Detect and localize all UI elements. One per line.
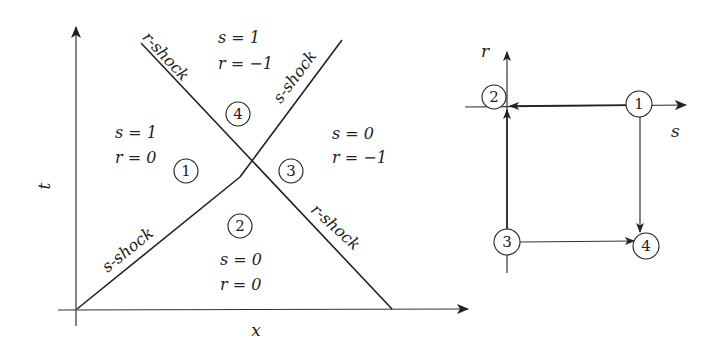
x-axis-label: x	[251, 320, 261, 340]
shock-label-upper-right: s-shock	[269, 47, 321, 107]
state-node-2: 2	[482, 85, 506, 109]
state-node-4: 4	[633, 233, 659, 259]
svg-text:4: 4	[641, 237, 651, 255]
svg-text:1: 1	[634, 95, 644, 113]
t-axis-label: t	[34, 182, 54, 189]
region-1-s: s = 1	[115, 123, 157, 142]
shock-label-lower-right: r-shock	[307, 200, 364, 254]
edge-3-to-4	[520, 241, 634, 242]
region-marker-2: 2	[228, 214, 252, 238]
r-axis-label: r	[481, 41, 490, 61]
svg-text:2: 2	[235, 217, 245, 235]
s-shock-line-lower	[77, 177, 240, 309]
region-1-r: r = 0	[115, 148, 156, 167]
state-node-3: 3	[494, 229, 520, 255]
region-3-r: r = −1	[332, 148, 387, 167]
shock-label-upper-left: r-shock	[139, 28, 194, 85]
region-2-r: r = 0	[220, 275, 261, 294]
svg-text:3: 3	[286, 162, 296, 180]
region-marker-3: 3	[279, 159, 303, 183]
region-marker-1: 1	[174, 159, 198, 183]
region-3-s: s = 0	[332, 124, 374, 143]
region-2-s: s = 0	[220, 250, 262, 269]
x-axis	[58, 309, 468, 310]
svg-text:4: 4	[233, 105, 243, 123]
state-node-1: 1	[626, 91, 652, 117]
left-diagram: t x r-shock s-shock s-shock r-shock s = …	[34, 27, 468, 340]
region-marker-4: 4	[226, 102, 250, 126]
figure: t x r-shock s-shock s-shock r-shock s = …	[0, 0, 722, 357]
s-axis-label: s	[671, 121, 680, 141]
svg-text:1: 1	[181, 162, 191, 180]
right-diagram: r s 1 2 3 4	[465, 41, 686, 273]
region-4-r: r = −1	[218, 54, 273, 73]
edge-1-to-2	[510, 105, 626, 106]
region-4-s: s = 1	[218, 28, 260, 47]
svg-text:2: 2	[489, 88, 499, 106]
svg-text:3: 3	[502, 233, 512, 251]
